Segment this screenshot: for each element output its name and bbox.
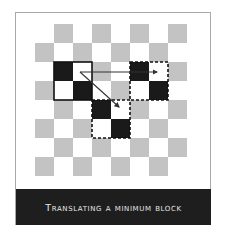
grid-cell [149, 119, 168, 138]
black-cell [54, 62, 73, 81]
grid-cell [92, 24, 111, 43]
grid-cell [130, 81, 149, 100]
grid-cell [54, 81, 73, 100]
black-cell [111, 119, 130, 138]
grid-cell [130, 24, 149, 43]
grid-cell [35, 157, 54, 176]
caption-text: Translating a minimum block [45, 202, 181, 213]
grid-cell [111, 81, 130, 100]
grid-cell [92, 138, 111, 157]
grid-cell [168, 24, 187, 43]
grid-cell [130, 138, 149, 157]
grid-cell [168, 138, 187, 157]
grid-cell [73, 157, 92, 176]
grid-cell [149, 157, 168, 176]
grid-cell [35, 119, 54, 138]
grid-cell [130, 100, 149, 119]
black-cell [73, 81, 92, 100]
grid-cell [111, 157, 130, 176]
grid-cell [54, 100, 73, 119]
grid-cell [73, 119, 92, 138]
grid-cell [35, 43, 54, 62]
grid-cell [54, 24, 73, 43]
grid-cell [149, 43, 168, 62]
grid-cell [168, 100, 187, 119]
grid-cell [54, 138, 73, 157]
caption-bar: Translating a minimum block [16, 189, 211, 225]
grid-cell [35, 81, 54, 100]
grid-cell [73, 43, 92, 62]
grid-cell [168, 62, 187, 81]
black-cell [92, 100, 111, 119]
grid-cell [92, 119, 111, 138]
grid-cell [111, 43, 130, 62]
black-cell [149, 81, 168, 100]
